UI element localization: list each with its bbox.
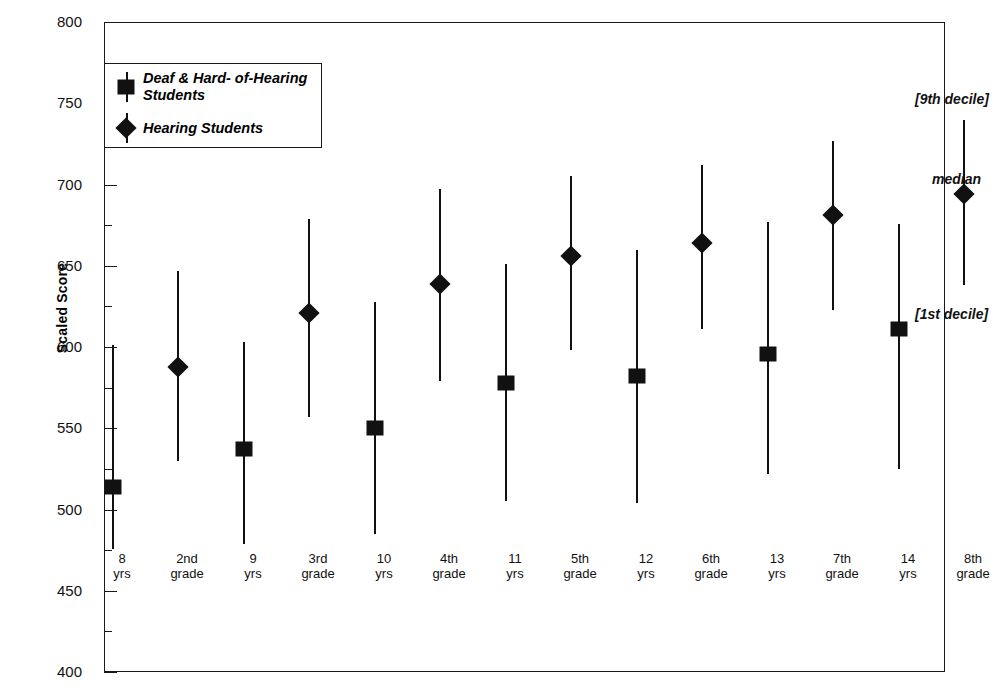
x-axis-label: 11 yrs [506, 551, 523, 581]
median-diamond-marker [953, 184, 974, 205]
y-tick-label: 400 [30, 663, 82, 680]
y-tick-label: 700 [30, 176, 82, 193]
legend-item-dhh-label: Deaf & Hard- of-Hearing Students [139, 70, 307, 104]
x-axis-label: 3rd grade [301, 551, 334, 581]
decile-range-line [898, 224, 900, 469]
square-marker-icon [115, 72, 139, 102]
median-square-marker [236, 442, 253, 457]
x-axis-label: 6th grade [694, 551, 727, 581]
x-axis-label: 2nd grade [170, 551, 203, 581]
y-tick-label: 500 [30, 501, 82, 518]
median-square-marker [105, 479, 122, 494]
legend: Deaf & Hard- of-Hearing Students Hearing… [104, 63, 322, 148]
x-axis-label: 8 yrs [113, 551, 130, 581]
median-square-marker [629, 369, 646, 384]
x-axis-label: 9 yrs [244, 551, 261, 581]
chart-annotation: [1st decile] [915, 306, 988, 322]
y-tick-label: 750 [30, 94, 82, 111]
median-square-marker [367, 421, 384, 436]
median-square-marker [891, 322, 908, 337]
diamond-marker-icon [115, 113, 139, 143]
legend-item-hearing-label: Hearing Students [139, 120, 263, 137]
y-tick-label: 650 [30, 257, 82, 274]
x-axis-label: 5th grade [563, 551, 596, 581]
y-tick-label: 800 [30, 13, 82, 30]
y-tick-label: 550 [30, 419, 82, 436]
chart-container: Scaled Score 800750700650600550500450400… [0, 0, 996, 692]
decile-range-line [374, 302, 376, 534]
x-axis-label: 10 yrs [375, 551, 392, 581]
x-axis-label: 7th grade [825, 551, 858, 581]
chart-annotation: median [932, 171, 981, 187]
x-axis-label: 12 yrs [637, 551, 654, 581]
chart-annotation: [9th decile] [915, 91, 989, 107]
y-tick-label: 450 [30, 582, 82, 599]
y-tick-major [104, 672, 117, 673]
x-axis-label: 8th grade [956, 551, 989, 581]
median-square-marker [498, 375, 515, 390]
y-tick-label: 600 [30, 338, 82, 355]
legend-item-hearing: Hearing Students [115, 113, 263, 143]
x-axis-label: 14 yrs [899, 551, 916, 581]
x-axis-label: 13 yrs [768, 551, 785, 581]
median-square-marker [760, 346, 777, 361]
x-axis-label: 4th grade [432, 551, 465, 581]
decile-range-line [112, 345, 114, 548]
legend-item-dhh: Deaf & Hard- of-Hearing Students [115, 70, 307, 104]
